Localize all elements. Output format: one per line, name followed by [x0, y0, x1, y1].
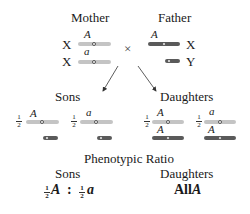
arrow-to-daughters-icon	[138, 66, 156, 91]
daughter-2-paternal-allele: A	[208, 123, 215, 135]
daughter-2-maternal-allele: a	[209, 105, 215, 117]
daughters-label: Daughters	[160, 89, 213, 105]
daughter-2-paternal-x	[204, 136, 236, 140]
fraction: 1 2	[196, 114, 202, 129]
centromere-icon	[45, 136, 49, 140]
sons-ratio-allele-1: A	[51, 182, 60, 198]
fraction: 1 2	[44, 185, 50, 200]
son-1-x-chromosome	[26, 120, 59, 124]
centromere-icon	[99, 136, 103, 140]
daughters-ratio-prefix: All	[174, 182, 192, 198]
ratio-sons-label: Sons	[55, 166, 80, 182]
fraction: 1 2	[79, 185, 85, 200]
fraction: 1 2	[16, 114, 22, 129]
fraction: 1 2	[71, 114, 77, 129]
daughter-1-maternal-allele: A	[157, 106, 164, 118]
sons-ratio-allele-2: a	[87, 182, 94, 198]
centromere-icon	[166, 136, 170, 140]
centromere-icon	[40, 120, 44, 124]
centromere-icon	[218, 120, 222, 124]
son-1-allele: A	[30, 107, 37, 119]
sons-label: Sons	[55, 89, 80, 105]
daughters-ratio-allele: A	[192, 182, 201, 198]
son-2-y-chromosome	[97, 136, 112, 140]
centromere-icon	[166, 120, 170, 124]
arrow-to-sons-icon	[103, 66, 118, 91]
centromere-icon	[94, 120, 98, 124]
fraction: 1 2	[144, 114, 150, 129]
centromere-icon	[218, 136, 222, 140]
son-2-allele: a	[86, 106, 92, 118]
phenotypic-ratio-title: Phenotypic Ratio	[84, 151, 174, 167]
son-1-y-chromosome	[43, 136, 58, 140]
ratio-daughters-label: Daughters	[160, 166, 213, 182]
daughter-1-paternal-allele: A	[157, 123, 164, 135]
ratio-separator: :	[67, 182, 72, 198]
son-2-x-chromosome	[80, 120, 113, 124]
daughter-1-paternal-x	[152, 136, 184, 140]
